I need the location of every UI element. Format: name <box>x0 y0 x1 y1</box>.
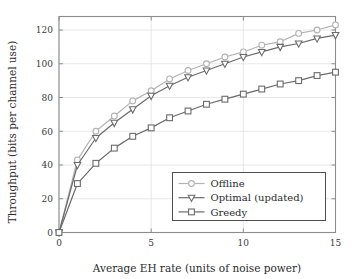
data-marker-square <box>93 160 99 166</box>
x-tick-label: 5 <box>148 238 154 248</box>
data-marker-circle <box>93 128 99 134</box>
data-marker-circle <box>296 30 302 36</box>
data-marker-circle <box>314 27 320 33</box>
y-tick-label: 120 <box>36 25 53 35</box>
x-axis-title: Average EH rate (units of noise power) <box>92 262 301 274</box>
chart-figure: 020406080100120051015 OfflineOptimal (up… <box>0 0 356 279</box>
data-marker-square <box>75 181 81 187</box>
data-marker-square <box>204 101 210 107</box>
data-marker-circle <box>167 76 173 82</box>
chart-legend: OfflineOptimal (updated)Greedy <box>173 173 326 221</box>
data-marker-circle <box>111 113 117 119</box>
y-tick-label: 40 <box>42 160 54 170</box>
data-marker-circle <box>185 68 191 74</box>
data-marker-square <box>296 78 302 84</box>
data-marker-square <box>259 86 265 92</box>
y-tick-label: 80 <box>42 93 54 103</box>
data-marker-square <box>56 230 62 236</box>
data-marker-circle <box>333 22 339 28</box>
data-marker-square <box>277 81 283 87</box>
legend-label: Optimal (updated) <box>211 192 304 203</box>
y-tick-label: 20 <box>42 194 54 204</box>
y-tick-label: 100 <box>36 59 53 69</box>
data-marker-circle <box>259 42 265 48</box>
data-marker-circle <box>130 98 136 104</box>
data-marker-circle <box>189 181 195 187</box>
x-tick-label: 10 <box>238 238 250 248</box>
y-axis-title: Throughput (bits per channel use) <box>6 41 18 224</box>
data-marker-square <box>240 91 246 97</box>
y-tick-label: 0 <box>47 228 53 238</box>
data-marker-circle <box>222 54 228 60</box>
x-tick-label: 0 <box>56 238 62 248</box>
throughput-vs-eh-rate-chart: 020406080100120051015 OfflineOptimal (up… <box>0 0 356 279</box>
data-marker-square <box>314 73 320 79</box>
data-marker-square <box>111 145 117 151</box>
data-marker-square <box>130 133 136 139</box>
x-tick-label: 15 <box>330 238 342 248</box>
data-marker-square <box>185 108 191 114</box>
data-marker-square <box>222 96 228 102</box>
data-marker-circle <box>204 61 210 67</box>
legend-label: Greedy <box>211 207 248 218</box>
data-marker-square <box>333 69 339 75</box>
data-marker-square <box>148 125 154 131</box>
legend-label: Offline <box>211 178 245 189</box>
y-tick-label: 60 <box>42 127 54 137</box>
data-marker-square <box>189 209 195 215</box>
data-marker-square <box>167 115 173 121</box>
